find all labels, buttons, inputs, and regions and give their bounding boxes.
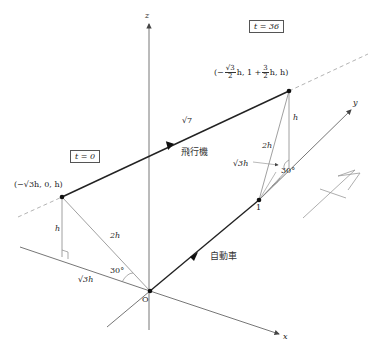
airplane-start-point [60, 195, 65, 200]
airplane-dashed-forward [289, 54, 368, 91]
plane-sketch-icon [303, 170, 360, 218]
frac-1-den: 2 [228, 73, 232, 80]
car-path [150, 200, 259, 291]
right-height-label: h [293, 114, 298, 122]
frac-1: √32 [225, 65, 236, 80]
airplane-end-suffix: h, h) [270, 69, 289, 77]
airplane-end-point [287, 89, 292, 94]
frac-2: 32 [262, 65, 268, 80]
x-axis-negative [20, 247, 150, 291]
airplane-start-label: (−√3h, 0, h) [14, 181, 63, 189]
right-angle-label: 30° [281, 167, 295, 175]
left-base-label: √3h [78, 276, 93, 284]
left-hypotenuse [62, 197, 150, 291]
diagram-canvas [0, 0, 384, 347]
x-axis-label: x [283, 333, 288, 341]
origin-label: O [142, 296, 149, 304]
right-base-label: √3h [233, 160, 248, 168]
time-end-box: t = 36 [249, 20, 284, 33]
car-point-label: 1 [256, 204, 261, 212]
origin-point [148, 289, 153, 294]
airplane-path [62, 91, 289, 197]
airplane-label: 飛行機 [181, 148, 208, 157]
y-axis-label: y [353, 99, 358, 107]
left-height-label: h [55, 225, 60, 233]
left-angle-label: 30° [110, 267, 124, 275]
car-arrow-icon [190, 252, 198, 261]
airplane-end-mid: h, 1 + [237, 69, 262, 77]
car-label: 自動車 [210, 252, 237, 261]
airplane-end-prefix: (− [214, 69, 224, 77]
right-hyp-label: 2h [262, 142, 272, 150]
airplane-dashed-back [18, 197, 62, 217]
frac-2-den: 2 [263, 73, 267, 80]
left-hyp-label: 2h [110, 232, 120, 240]
airplane-speed-label: √7 [182, 117, 192, 125]
sqrt3h-leader [253, 162, 278, 165]
left-right-angle-mark [62, 250, 68, 259]
x-axis [150, 291, 279, 334]
airplane-end-label: (− √32 h, 1 + 32 h, h) [214, 65, 288, 80]
time-start-box: t = 0 [70, 150, 100, 163]
car-point [257, 198, 262, 203]
z-axis-label: z [145, 12, 149, 20]
